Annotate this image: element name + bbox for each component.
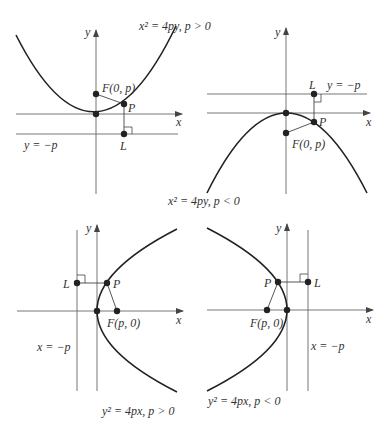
parabola-curve xyxy=(207,113,367,193)
panel-parabola-right: y x F(p, 0) P L x = −p y² = 4px, p > 0 xyxy=(17,221,183,418)
focus-dot xyxy=(264,307,270,313)
x-axis-label: x xyxy=(365,115,372,129)
parabola-curve xyxy=(97,229,177,392)
panel-caption: x² = 4py, p > 0 xyxy=(138,19,211,33)
point-p-label: P xyxy=(263,276,272,290)
vertex-dot xyxy=(284,307,290,313)
panel-caption: y² = 4px, p < 0 xyxy=(207,394,280,408)
panel-parabola-up: y x F(0, p) P L y = −p x² = 4py, p > 0 xyxy=(16,19,211,194)
point-p-dot xyxy=(104,280,110,286)
directrix-label: x = −p xyxy=(36,340,71,354)
focus-dot xyxy=(114,308,120,314)
x-axis-label: x xyxy=(365,312,372,326)
point-l-label: L xyxy=(313,276,321,290)
point-p-label: P xyxy=(318,115,327,129)
y-axis-label: y xyxy=(84,25,91,39)
point-p-label: P xyxy=(127,101,136,115)
focus-label: F(p, 0) xyxy=(249,316,283,330)
focus-label: F(0, p) xyxy=(291,137,325,151)
x-axis-label: x xyxy=(175,313,182,327)
point-l-dot xyxy=(74,280,80,286)
vertex-dot xyxy=(93,111,99,117)
y-axis-label: y xyxy=(85,221,92,235)
panel-caption: y² = 4px, p > 0 xyxy=(101,404,174,418)
focus-to-point-segment xyxy=(286,122,314,133)
vertex-dot xyxy=(283,110,289,116)
parabola-curve xyxy=(207,228,287,391)
focus-dot xyxy=(283,130,289,136)
point-l-dot xyxy=(121,131,127,137)
directrix-label: y = −p xyxy=(326,78,361,92)
point-l-label: L xyxy=(308,78,316,92)
point-p-dot xyxy=(275,279,281,285)
parabola-figure: y x F(0, p) P L y = −p x² = 4py, p > 0 y… xyxy=(0,0,390,426)
panel-parabola-down: y x F(0, p) P L y = −p x² = 4py, p < 0 xyxy=(167,25,372,208)
point-l-label: L xyxy=(62,277,70,291)
point-p-label: P xyxy=(112,277,121,291)
point-l-dot xyxy=(305,279,311,285)
point-l-label: L xyxy=(119,139,127,153)
focus-to-point-segment xyxy=(96,94,124,104)
panel-parabola-left: y x F(p, 0) P L x = −p y² = 4px, p < 0 xyxy=(207,221,373,408)
x-axis-label: x xyxy=(175,115,182,129)
focus-label: F(p, 0) xyxy=(106,316,140,330)
focus-dot xyxy=(93,91,99,97)
point-p-dot xyxy=(311,119,317,125)
y-axis-label: y xyxy=(274,25,281,39)
directrix-label: y = −p xyxy=(23,138,58,152)
panel-caption: x² = 4py, p < 0 xyxy=(167,194,240,208)
vertex-dot xyxy=(94,308,100,314)
directrix-label: x = −p xyxy=(310,339,345,353)
y-axis-label: y xyxy=(275,221,282,235)
focus-label: F(0, p) xyxy=(101,81,135,95)
point-p-dot xyxy=(121,101,127,107)
